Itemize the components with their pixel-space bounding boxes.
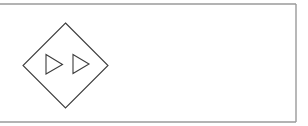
frame xyxy=(0,4,296,122)
play-triangle-right-icon xyxy=(73,55,89,74)
diamond-shape xyxy=(23,23,108,108)
diagram-canvas xyxy=(0,0,308,126)
play-triangle-left-icon xyxy=(46,55,63,75)
fast-forward-icon xyxy=(23,23,108,108)
